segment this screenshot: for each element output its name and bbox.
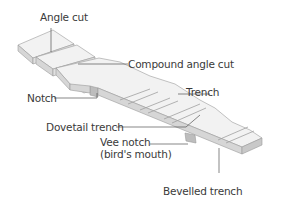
label-vee-notch-sub: (bird's mouth) (100, 148, 172, 160)
label-vee-notch: Vee notch (100, 136, 150, 148)
label-trench: Trench (186, 86, 219, 98)
segment-main-beam (56, 58, 262, 154)
label-notch: Notch (27, 92, 57, 104)
label-compound-angle-cut: Compound angle cut (128, 58, 234, 70)
timber-cuts-illustration (0, 0, 282, 208)
label-angle-cut: Angle cut (40, 11, 88, 23)
label-dovetail-trench: Dovetail trench (46, 121, 124, 133)
label-bevelled-trench: Bevelled trench (163, 185, 242, 197)
